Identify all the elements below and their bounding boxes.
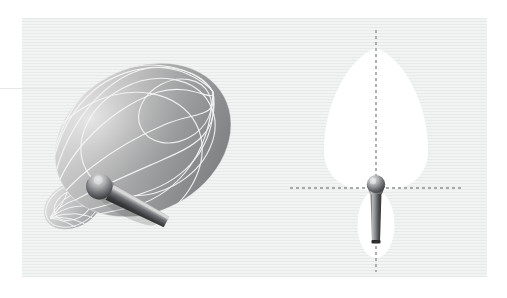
right-diagram-2d-pattern	[0, 0, 507, 298]
figure-root	[0, 0, 507, 298]
